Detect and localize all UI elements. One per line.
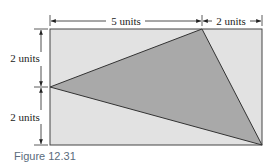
top-right-label: 2 units: [216, 15, 246, 27]
diagram: 5 units 2 units 2 units 2 units Figure 1…: [0, 0, 276, 165]
figure-caption: Figure 12.31: [14, 150, 76, 162]
top-left-label: 5 units: [111, 15, 141, 27]
left-lower-label: 2 units: [10, 111, 40, 123]
left-upper-label: 2 units: [10, 52, 40, 64]
